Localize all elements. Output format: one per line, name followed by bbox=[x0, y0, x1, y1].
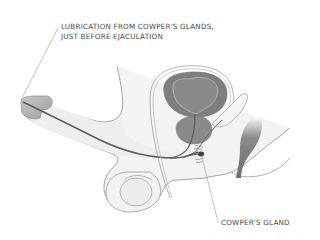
cowpers-gland-label: COWPER'S GLAND bbox=[221, 218, 290, 228]
lubrication-label-line1: LUBRICATION FROM COWPER'S GLANDS, bbox=[61, 22, 214, 32]
leader-line-lubrication bbox=[21, 28, 58, 100]
testicle bbox=[120, 178, 152, 206]
lubrication-label: LUBRICATION FROM COWPER'S GLANDS, JUST B… bbox=[61, 22, 214, 42]
lubrication-label-line2: JUST BEFORE EJACULATION bbox=[61, 32, 214, 42]
